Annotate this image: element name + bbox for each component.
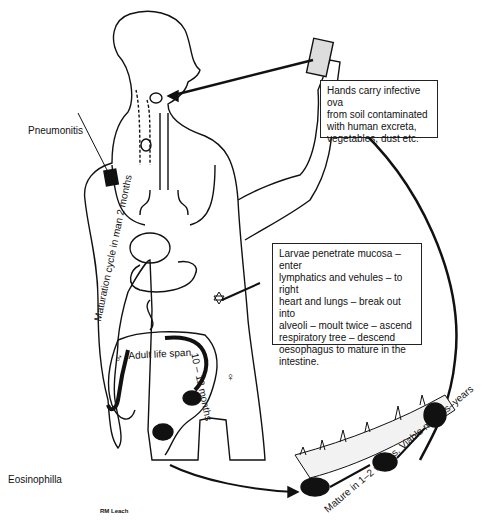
- eosinophilia-label: Eosinophilla: [8, 474, 62, 486]
- female-symbol: ♀: [226, 371, 235, 383]
- larva-star-icon: [214, 292, 224, 304]
- male-symbol: ♂: [114, 352, 123, 364]
- soil-clump-hand: [306, 38, 333, 76]
- artist-signature: RM Leach: [100, 508, 128, 514]
- ovum-icon: [153, 424, 173, 440]
- ovum-icon: [301, 478, 329, 496]
- hands-callout: Hands carry infective ova from soil cont…: [320, 80, 438, 138]
- stomach: [130, 233, 170, 263]
- ovum-icon: [150, 93, 162, 103]
- pneumonitis-label: Pneumonitis: [28, 125, 83, 137]
- larvae-callout: Larvae penetrate mucosa – enter lymphati…: [272, 243, 422, 345]
- pneumonitis-patch-icon: [104, 169, 118, 186]
